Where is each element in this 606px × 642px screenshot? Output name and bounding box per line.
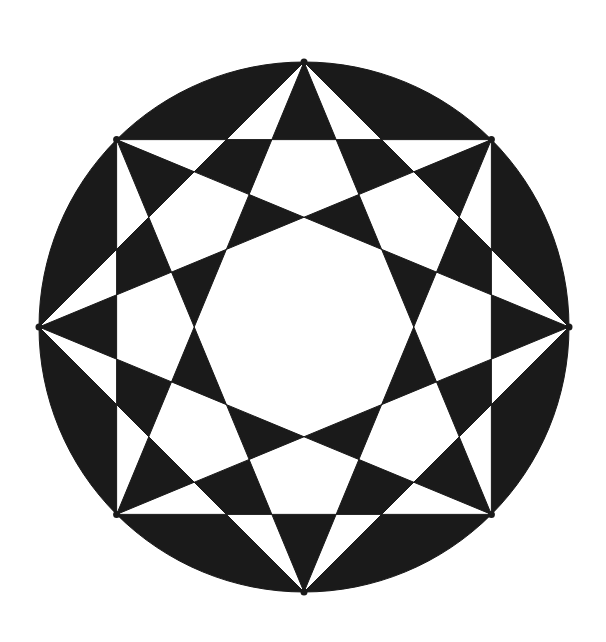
vertex-dot xyxy=(301,59,308,66)
star-diagram xyxy=(0,0,606,642)
vertex-dot xyxy=(113,136,120,143)
vertex-dot xyxy=(488,511,495,518)
vertex-dot xyxy=(36,324,43,331)
vertex-dot xyxy=(566,324,573,331)
vertex-dot xyxy=(488,136,495,143)
vertex-dot xyxy=(301,589,308,596)
vertex-dot xyxy=(113,511,120,518)
